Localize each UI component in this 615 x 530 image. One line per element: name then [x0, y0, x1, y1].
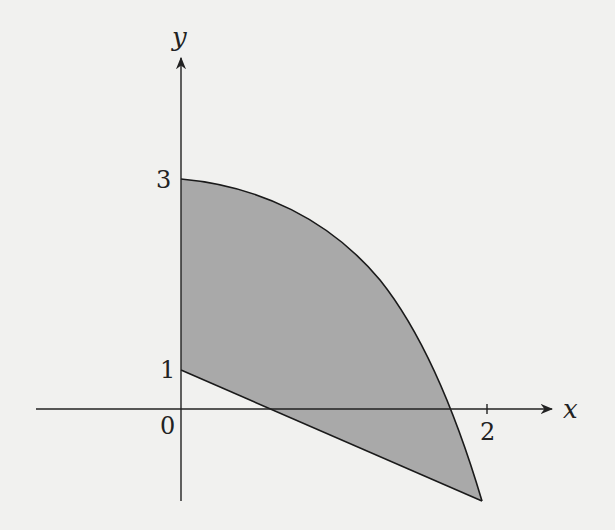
y-tick-label-1: 1: [160, 356, 175, 384]
y-tick-label-3: 3: [156, 166, 171, 194]
origin-label: 0: [160, 412, 175, 440]
y-axis-label: y: [171, 22, 187, 52]
region-diagram: y x 3 1 0 2: [0, 0, 615, 530]
x-axis-label: x: [563, 394, 578, 424]
shaded-region: [181, 179, 482, 501]
x-tick-label-2: 2: [480, 418, 495, 446]
